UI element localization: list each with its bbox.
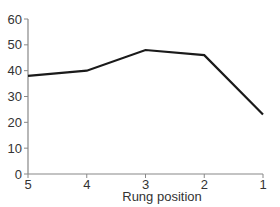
x-tick-label: 4 (83, 177, 90, 192)
x-axis-label: Rung position (122, 189, 202, 204)
y-tick-label: 20 (8, 115, 22, 130)
y-tick-label: 50 (8, 37, 22, 52)
y-tick-label: 40 (8, 63, 22, 78)
y-tick-label: 10 (8, 141, 22, 156)
x-tick-label: 1 (259, 177, 266, 192)
y-axis: 0102030405060 (8, 12, 28, 182)
data-series-line (28, 50, 263, 115)
line-chart: 0102030405060 54321 Rung position (0, 0, 280, 207)
y-tick-label: 0 (15, 167, 22, 182)
y-tick-label: 30 (8, 89, 22, 104)
x-tick-label: 5 (24, 177, 31, 192)
y-tick-label: 60 (8, 12, 22, 27)
